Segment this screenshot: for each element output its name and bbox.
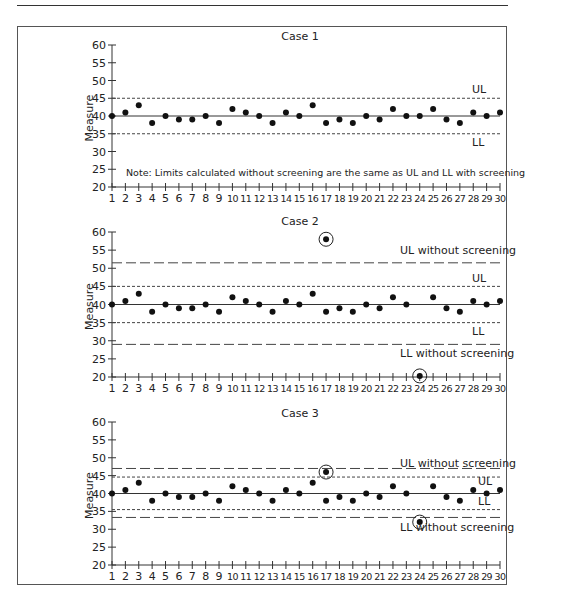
data-point [497,109,503,115]
data-point [256,302,262,308]
data-point [163,113,169,119]
data-point [149,120,155,126]
data-point [296,302,302,308]
x-tick-label: 30 [495,193,506,204]
data-point [484,113,490,119]
chart-case-3: Case 3Measure202530354045505560123456789… [83,407,516,583]
y-tick-label: 55 [92,57,106,70]
x-tick-label: 18 [334,383,345,394]
y-tick-label: 25 [92,353,106,366]
data-point [350,309,356,315]
limit-label: UL [472,83,487,96]
x-tick-label: 21 [374,571,385,582]
data-point [136,102,142,108]
data-point [403,491,409,497]
x-tick-label: 22 [388,383,399,394]
x-tick-label: 7 [189,382,196,395]
x-tick-label: 21 [374,383,385,394]
data-point [336,117,342,123]
data-point [484,491,490,497]
limit-label: UL [478,475,493,488]
data-point [336,305,342,311]
data-point [149,309,155,315]
y-tick-label: 55 [92,434,106,447]
limit-label: UL without screening [400,457,516,470]
x-tick-label: 1 [109,382,116,395]
data-point [430,483,436,489]
x-tick-label: 29 [481,571,492,582]
data-point [323,120,329,126]
x-tick-label: 27 [454,571,465,582]
data-point [283,487,289,493]
x-tick-label: 13 [267,193,278,204]
x-tick-label: 28 [468,193,479,204]
x-tick-label: 18 [334,193,345,204]
data-point [377,117,383,123]
outlier-point [417,373,423,379]
data-point [216,309,222,315]
data-point [457,309,463,315]
data-point [136,480,142,486]
x-tick-label: 23 [401,193,412,204]
x-tick-label: 8 [202,382,209,395]
data-point [350,498,356,504]
x-tick-label: 15 [294,383,305,394]
x-tick-label: 2 [122,382,129,395]
data-point [216,120,222,126]
data-point [443,305,449,311]
y-tick-label: 40 [92,110,106,123]
data-point [363,302,369,308]
data-point [149,498,155,504]
x-tick-label: 1 [109,570,116,583]
x-tick-label: 9 [216,192,223,205]
x-tick-label: 22 [388,193,399,204]
x-tick-label: 9 [216,570,223,583]
data-point [443,494,449,500]
y-tick-label: 60 [92,39,106,52]
data-point [310,480,316,486]
data-point [377,305,383,311]
x-tick-label: 7 [189,570,196,583]
chart-case-2: Case 2Measure202530354045505560123456789… [83,215,516,395]
x-tick-label: 9 [216,382,223,395]
x-tick-label: 13 [267,383,278,394]
data-point [283,298,289,304]
y-tick-label: 50 [92,262,106,275]
data-point [430,294,436,300]
x-tick-label: 10 [227,571,238,582]
x-tick-label: 7 [189,192,196,205]
data-point [283,109,289,115]
x-tick-label: 1 [109,192,116,205]
x-tick-label: 28 [468,383,479,394]
chart-title: Case 2 [281,215,318,228]
data-point [163,302,169,308]
x-tick-label: 15 [294,571,305,582]
data-point [497,487,503,493]
data-point [484,302,490,308]
data-point [203,491,209,497]
data-point [497,298,503,304]
data-point [430,106,436,112]
x-tick-label: 16 [307,571,318,582]
y-tick-label: 30 [92,523,106,536]
data-point [243,487,249,493]
x-tick-label: 5 [162,570,169,583]
x-tick-label: 3 [135,570,142,583]
chart-note: Note: Limits calculated without screenin… [126,167,525,178]
data-point [256,113,262,119]
outlier-point [417,519,423,525]
data-point [270,120,276,126]
x-tick-label: 14 [280,193,291,204]
y-tick-label: 45 [92,92,106,105]
data-point [417,113,423,119]
data-point [203,113,209,119]
x-tick-label: 25 [428,383,439,394]
data-point [176,494,182,500]
x-tick-label: 12 [254,383,265,394]
x-tick-label: 21 [374,193,385,204]
x-tick-label: 13 [267,571,278,582]
data-point [243,298,249,304]
chart-title: Case 1 [281,30,318,43]
x-tick-label: 19 [347,571,358,582]
x-tick-label: 30 [495,571,506,582]
